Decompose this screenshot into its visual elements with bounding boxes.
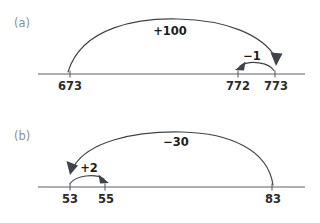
panel-a-jump-label-minus1: −1 bbox=[243, 49, 261, 63]
panel-b-tick-label-1: 55 bbox=[98, 192, 114, 206]
panel-b-jump-arrowhead-plus2 bbox=[99, 175, 110, 184]
panel-b: (b) 53 55 83 −30 +2 bbox=[14, 129, 305, 206]
panel-a-tick-label-0: 673 bbox=[58, 79, 82, 93]
panel-b-letter: (b) bbox=[14, 129, 30, 143]
panel-b-jump-label-minus30: −30 bbox=[163, 135, 189, 149]
panel-b-tick-label-2: 83 bbox=[265, 192, 281, 206]
panel-b-jump-label-plus2: +2 bbox=[80, 161, 98, 175]
panel-a-tick-label-1: 772 bbox=[226, 79, 250, 93]
panel-a-jump-arrowhead-plus100 bbox=[271, 53, 283, 67]
number-line-figure: (a) 673 772 773 +100 −1 (b) 53 55 83 bbox=[0, 0, 320, 223]
panel-a: (a) 673 772 773 +100 −1 bbox=[14, 16, 305, 93]
panel-a-jump-label-plus100: +100 bbox=[153, 24, 187, 38]
panel-a-tick-label-2: 773 bbox=[264, 79, 288, 93]
panel-a-letter: (a) bbox=[14, 16, 30, 30]
panel-b-tick-label-0: 53 bbox=[62, 192, 78, 206]
